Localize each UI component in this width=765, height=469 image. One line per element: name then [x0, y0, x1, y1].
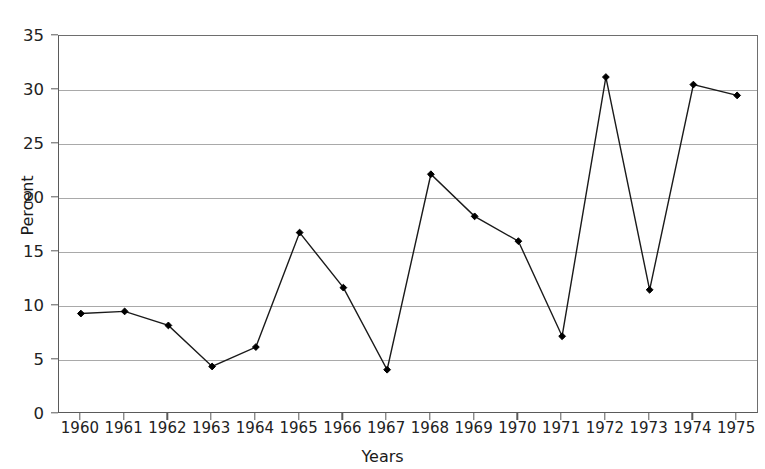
data-point-marker: [734, 92, 741, 99]
x-axis-tick-label: 1970: [498, 419, 536, 437]
x-axis-tick-label: 1961: [105, 419, 143, 437]
x-axis-tick-label: 1965: [280, 419, 318, 437]
x-axis-tick-mark: [473, 413, 474, 420]
x-axis-tick-mark: [342, 413, 343, 420]
y-axis-tick-mark: [51, 304, 58, 305]
x-axis-tick-mark: [604, 413, 605, 420]
x-axis-tick-label: 1972: [586, 419, 624, 437]
x-axis-tick-mark: [254, 413, 255, 420]
y-axis-tick-label: 5: [34, 350, 45, 369]
x-axis-tick-label: 1971: [542, 419, 580, 437]
y-axis-tick-mark: [51, 358, 58, 359]
x-axis-tick-mark: [210, 413, 211, 420]
data-point-marker: [77, 310, 84, 317]
data-point-marker: [559, 333, 566, 340]
x-axis-tick-label: 1975: [717, 419, 755, 437]
y-axis-tick-label: 10: [23, 296, 44, 315]
x-axis-tick-labels: 1960196119621963196419651966196719681969…: [0, 419, 765, 443]
y-axis-tick-mark: [51, 142, 58, 143]
data-point-marker: [690, 81, 697, 88]
x-axis-tick-label: 1974: [673, 419, 711, 437]
x-axis-tick-mark: [167, 413, 168, 420]
x-axis-tick-mark: [648, 413, 649, 420]
y-axis-tick-label: 30: [23, 80, 44, 99]
data-point-marker: [121, 308, 128, 315]
data-point-marker: [384, 366, 391, 373]
x-axis-tick-label: 1967: [367, 419, 405, 437]
x-axis-tick-label: 1963: [192, 419, 230, 437]
x-axis-tick-mark: [692, 413, 693, 420]
y-axis-tick-mark: [51, 412, 58, 413]
data-point-marker: [602, 74, 609, 81]
plot-area: [58, 35, 758, 413]
y-axis-tick-label: 0: [34, 404, 45, 423]
series-polyline: [81, 77, 737, 370]
y-axis-tick-mark: [51, 250, 58, 251]
x-axis-tick-mark: [79, 413, 80, 420]
y-axis-tick-label: 35: [23, 26, 44, 45]
x-axis-tick-label: 1966: [323, 419, 361, 437]
data-point-marker: [252, 344, 259, 351]
x-axis-tick-label: 1968: [411, 419, 449, 437]
x-axis-tick-mark: [560, 413, 561, 420]
x-axis-tick-mark: [735, 413, 736, 420]
x-axis-tick-label: 1964: [236, 419, 274, 437]
data-point-marker: [515, 238, 522, 245]
y-axis-tick-mark: [51, 196, 58, 197]
y-axis-title: Percent: [18, 146, 37, 266]
y-axis-tick-mark: [51, 34, 58, 35]
x-axis-tick-mark: [298, 413, 299, 420]
x-axis-tick-label: 1969: [455, 419, 493, 437]
data-point-marker: [646, 286, 653, 293]
line-chart-figure: Percent 05101520253035 19601961196219631…: [0, 0, 765, 469]
x-axis-title: Years: [0, 447, 765, 466]
data-series-line: [59, 36, 759, 414]
x-axis-tick-label: 1973: [630, 419, 668, 437]
x-axis-tick-mark: [517, 413, 518, 420]
x-axis-tick-mark: [123, 413, 124, 420]
x-axis-tick-mark: [429, 413, 430, 420]
x-axis-tick-label: 1960: [61, 419, 99, 437]
x-axis-tick-label: 1962: [148, 419, 186, 437]
x-axis-tick-mark: [385, 413, 386, 420]
y-axis-tick-mark: [51, 88, 58, 89]
